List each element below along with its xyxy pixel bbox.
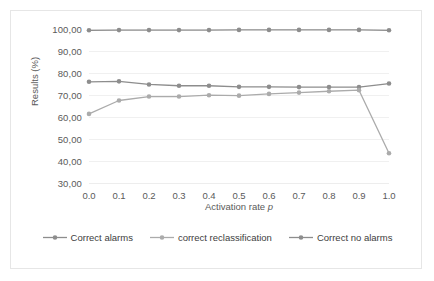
data-point-marker (147, 28, 152, 33)
data-point-marker (147, 94, 152, 99)
data-point-marker (87, 28, 92, 33)
x-axis-title-variable: p (268, 201, 273, 212)
series-line (89, 90, 389, 153)
data-point-marker (87, 80, 92, 85)
data-point-marker (387, 28, 392, 33)
legend-item[interactable]: Correct no alarms (288, 232, 393, 243)
x-axis-tick-label: 0.1 (112, 190, 125, 201)
series-correct-alarms (87, 79, 392, 89)
x-axis-tick-label: 0.3 (172, 190, 185, 201)
y-axis-tick-label: 90,00 (58, 46, 82, 57)
data-point-marker (237, 93, 242, 98)
x-axis-title-text: Activation rate (205, 201, 268, 212)
legend-item[interactable]: Correct alarms (42, 232, 133, 243)
legend-item-label: Correct no alarms (317, 232, 393, 243)
x-axis-tick-label: 0.0 (82, 190, 95, 201)
x-axis-tick-label: 0.7 (292, 190, 305, 201)
series-correct-reclassification (87, 88, 392, 156)
data-point-marker (357, 88, 362, 93)
data-point-marker (207, 83, 212, 88)
data-point-marker (177, 94, 182, 99)
data-point-marker (387, 81, 392, 86)
x-axis-tick-label: 1.0 (382, 190, 395, 201)
data-point-marker (387, 151, 392, 156)
y-axis-title: Results (%) (29, 57, 40, 106)
y-axis-tick-label: 30,00 (58, 178, 82, 189)
x-axis-title: Activation rate p (89, 201, 389, 212)
legend-item-label: Correct alarms (71, 232, 133, 243)
series-correct-no-alarms (87, 28, 392, 33)
x-axis-tick-label: 0.6 (262, 190, 275, 201)
x-axis-tick-label: 0.5 (232, 190, 245, 201)
data-point-marker (327, 89, 332, 94)
x-axis-tick-label: 0.9 (352, 190, 365, 201)
legend-item-label: correct reclassification (178, 232, 272, 243)
plot-area: 100,0090,0080,0070,0060,0050,0040,0030,0… (89, 29, 389, 183)
data-point-marker (117, 98, 122, 103)
data-point-marker (117, 79, 122, 84)
data-point-marker (147, 82, 152, 87)
data-point-marker (237, 85, 242, 90)
legend-marker-icon (288, 233, 314, 242)
data-point-marker (177, 28, 182, 33)
data-point-marker (267, 92, 272, 97)
series-layer (89, 29, 389, 183)
gridline (89, 183, 389, 184)
data-point-marker (207, 28, 212, 33)
data-point-marker (297, 28, 302, 33)
y-axis-tick-label: 70,00 (58, 90, 82, 101)
data-point-marker (177, 83, 182, 88)
data-point-marker (117, 28, 122, 33)
y-axis-tick-label: 80,00 (58, 68, 82, 79)
data-point-marker (297, 85, 302, 90)
data-point-marker (267, 85, 272, 90)
plot-wrapper: Results (%) Activation rate p 100,0090,0… (11, 11, 423, 226)
y-axis-tick-label: 40,00 (58, 156, 82, 167)
chart-legend: Correct alarmscorrect reclassificationCo… (11, 232, 423, 243)
x-axis-tick-label: 0.8 (322, 190, 335, 201)
y-axis-tick-label: 60,00 (58, 112, 82, 123)
data-point-marker (327, 28, 332, 33)
y-axis-tick-label: 50,00 (58, 134, 82, 145)
data-point-marker (267, 28, 272, 33)
x-axis-tick-label: 0.2 (142, 190, 155, 201)
data-point-marker (327, 85, 332, 90)
chart-card: Results (%) Activation rate p 100,0090,0… (10, 10, 422, 269)
x-axis-tick-label: 0.4 (202, 190, 215, 201)
legend-item[interactable]: correct reclassification (149, 232, 272, 243)
legend-marker-icon (149, 233, 175, 242)
data-point-marker (297, 90, 302, 95)
data-point-marker (357, 28, 362, 33)
data-point-marker (237, 28, 242, 33)
data-point-marker (207, 93, 212, 98)
legend-marker-icon (42, 233, 68, 242)
y-axis-tick-label: 100,00 (52, 24, 82, 35)
data-point-marker (87, 112, 92, 117)
